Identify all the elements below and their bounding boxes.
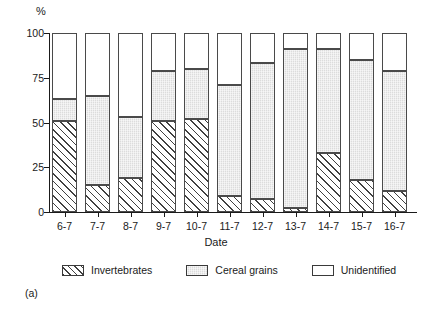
y-tick-label-25: 25 — [18, 162, 44, 172]
bar-segment-cereal-grains — [250, 63, 275, 199]
bar-segment-unidentified — [184, 33, 209, 69]
bar-segment-cereal-grains — [52, 99, 77, 120]
bar-segment-unidentified — [316, 33, 341, 49]
legend-item-invertebrates: Invertebrates — [62, 264, 152, 276]
x-tick-mark — [395, 213, 396, 217]
bar-group — [85, 33, 110, 212]
bar-group — [118, 33, 143, 212]
bar-segment-cereal-grains — [316, 49, 341, 153]
bar-segment-invertebrates — [316, 153, 341, 212]
gray-swatch-icon — [186, 265, 208, 276]
x-tick-mark — [131, 213, 132, 217]
bar-segment-invertebrates — [382, 191, 407, 212]
bar-segment-unidentified — [250, 33, 275, 63]
bar-segment-cereal-grains — [349, 60, 374, 180]
bar-segment-unidentified — [349, 33, 374, 60]
x-tick-mark — [164, 213, 165, 217]
x-tick-mark — [263, 213, 264, 217]
bar-segment-cereal-grains — [118, 117, 143, 178]
bar-segment-cereal-grains — [217, 85, 242, 196]
bar-segment-invertebrates — [85, 185, 110, 212]
bar-segment-cereal-grains — [85, 96, 110, 186]
y-tick-label-100: 100 — [18, 28, 44, 38]
x-tick-mark — [65, 213, 66, 217]
bar-group — [349, 33, 374, 212]
legend-item-unidentified: Unidentified — [312, 264, 396, 276]
x-tick-mark — [98, 213, 99, 217]
panel-label: (a) — [25, 287, 38, 299]
bar-segment-unidentified — [217, 33, 242, 85]
bar-segment-cereal-grains — [151, 71, 176, 121]
bar-group — [217, 33, 242, 212]
bar-segment-unidentified — [118, 33, 143, 117]
bar-group — [184, 33, 209, 212]
bar-segment-invertebrates — [184, 119, 209, 212]
bar-group — [316, 33, 341, 212]
bar-segment-invertebrates — [349, 180, 374, 212]
x-tick-label: 16-7 — [375, 220, 415, 232]
bar-segment-unidentified — [151, 33, 176, 71]
legend-label-cereal-grains: Cereal grains — [215, 264, 277, 276]
stacked-bar-chart: % 100 75 50 25 0 Date Invertebrates Cere… — [0, 0, 432, 311]
bar-segment-unidentified — [382, 33, 407, 71]
bar-segment-invertebrates — [151, 121, 176, 212]
white-swatch-icon — [312, 265, 334, 276]
bar-group — [382, 33, 407, 212]
bar-group — [250, 33, 275, 212]
x-tick-mark — [230, 213, 231, 217]
y-tick-label-0: 0 — [18, 207, 44, 217]
bar-group — [283, 33, 308, 212]
bar-group — [52, 33, 77, 212]
x-tick-mark — [197, 213, 198, 217]
bar-segment-unidentified — [52, 33, 77, 99]
x-axis-title: Date — [0, 236, 432, 248]
legend-item-cereal-grains: Cereal grains — [186, 264, 277, 276]
hatched-swatch-icon — [62, 265, 84, 276]
bar-group — [151, 33, 176, 212]
chart-legend: Invertebrates Cereal grains Unidentified — [62, 264, 396, 276]
y-tick-label-50: 50 — [18, 118, 44, 128]
x-tick-mark — [329, 213, 330, 217]
x-tick-mark — [296, 213, 297, 217]
x-tick-mark — [362, 213, 363, 217]
plot-area — [49, 33, 417, 212]
legend-label-invertebrates: Invertebrates — [91, 264, 152, 276]
bar-segment-invertebrates — [250, 199, 275, 212]
bar-segment-invertebrates — [283, 208, 308, 212]
bar-segment-invertebrates — [118, 178, 143, 212]
bar-segment-invertebrates — [217, 196, 242, 212]
bar-segment-unidentified — [283, 33, 308, 49]
bar-segment-invertebrates — [52, 121, 77, 212]
y-tick-label-75: 75 — [18, 73, 44, 83]
legend-label-unidentified: Unidentified — [341, 264, 396, 276]
bar-segment-cereal-grains — [184, 69, 209, 119]
bar-segment-cereal-grains — [283, 49, 308, 208]
bar-segment-cereal-grains — [382, 71, 407, 191]
bar-segment-unidentified — [85, 33, 110, 96]
y-axis-tick-labels: 100 75 50 25 0 — [16, 0, 44, 311]
